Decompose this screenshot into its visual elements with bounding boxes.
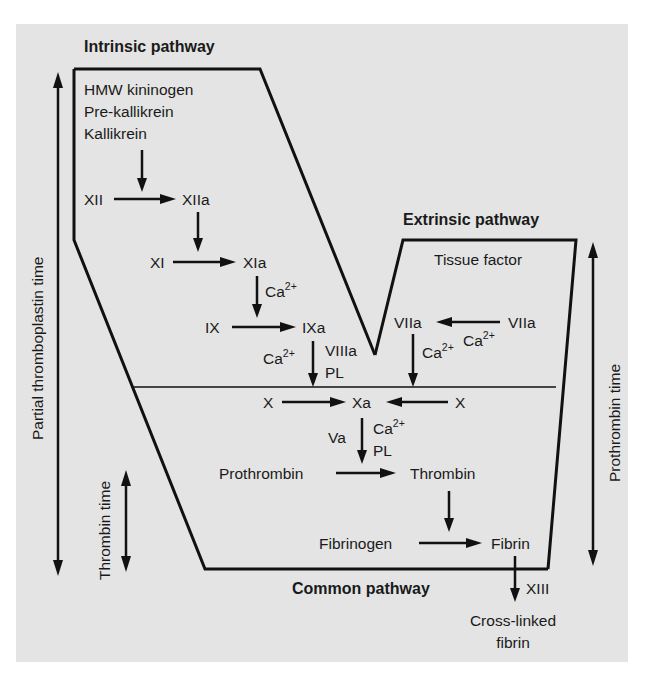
xiii-label: XIII (526, 580, 549, 597)
arrowhead-right-icon (280, 322, 296, 332)
pl-xa-label: PL (373, 442, 392, 459)
arrowhead-right-icon (330, 397, 346, 407)
ix-label: IX (205, 319, 220, 336)
viiia-label: VIIIa (325, 342, 357, 359)
arrowhead-left-icon (436, 317, 452, 327)
hmw-kininogen-label: HMW kininogen (84, 81, 193, 98)
arrowhead-down-icon (444, 518, 454, 532)
prothrombin-label: Prothrombin (219, 465, 303, 482)
arrowhead-down-icon (121, 556, 131, 572)
viia-left-label: VIIa (394, 314, 422, 331)
ca-ixa-label: Ca2+ (263, 347, 295, 367)
xiia-label: XIIa (182, 191, 210, 208)
arrowhead-down-icon (357, 450, 367, 464)
extrinsic-pathway-title: Extrinsic pathway (403, 211, 539, 228)
arrowhead-right-icon (160, 194, 176, 204)
fibrinogen-label: Fibrinogen (319, 535, 392, 552)
va-label: Va (328, 429, 346, 446)
arrowhead-down-icon (308, 373, 318, 387)
arrowhead-left-icon (386, 397, 402, 407)
extrinsic-outline (375, 240, 576, 569)
arrowhead-down-icon (53, 560, 63, 576)
coagulation-diagram: Intrinsic pathway Extrinsic pathway Comm… (0, 0, 645, 676)
ca-xa-label: Ca2+ (373, 417, 405, 437)
xa-label: Xa (352, 394, 371, 411)
arrowhead-up-icon (53, 72, 63, 88)
pre-kallikrein-label: Pre-kallikrein (84, 103, 174, 120)
arrowhead-down-icon (408, 373, 418, 387)
cross-linked-label: Cross-linked (470, 612, 556, 629)
thrombin-time-label: Thrombin time (96, 481, 113, 580)
arrowhead-down-icon (137, 178, 147, 192)
ca-xia-label: Ca2+ (265, 280, 297, 300)
tissue-factor-label: Tissue factor (434, 251, 522, 268)
arrowhead-right-icon (380, 468, 396, 478)
arrowhead-down-icon (252, 304, 262, 318)
arrowhead-down-icon (193, 238, 203, 252)
xi-label: XI (150, 254, 165, 271)
arrowhead-down-icon (510, 588, 520, 602)
x-right-label: X (455, 394, 466, 411)
arrowhead-down-icon (588, 550, 598, 566)
arrowhead-up-icon (588, 242, 598, 258)
pt-label: Prothrombin time (606, 364, 623, 482)
cross-linked-fibrin-label: fibrin (496, 634, 530, 651)
common-pathway-title: Common pathway (292, 580, 430, 597)
arrowhead-right-icon (220, 257, 236, 267)
arrowhead-right-icon (466, 538, 482, 548)
xii-label: XII (84, 191, 103, 208)
x-left-label: X (263, 394, 274, 411)
ca-upper-label: Ca2+ (463, 329, 495, 349)
ptt-label: Partial thromboplastin time (29, 257, 46, 441)
pl-ixa-label: PL (325, 364, 344, 381)
kallikrein-label: Kallikrein (84, 125, 147, 142)
intrinsic-pathway-title: Intrinsic pathway (84, 38, 215, 55)
thrombin-label: Thrombin (410, 465, 475, 482)
ixa-label: IXa (302, 319, 326, 336)
viia-right-label: VIIa (508, 314, 536, 331)
arrowhead-up-icon (121, 470, 131, 486)
ca-lower-label: Ca2+ (422, 341, 454, 361)
fibrin-label: Fibrin (491, 535, 530, 552)
xia-label: XIa (243, 254, 267, 271)
